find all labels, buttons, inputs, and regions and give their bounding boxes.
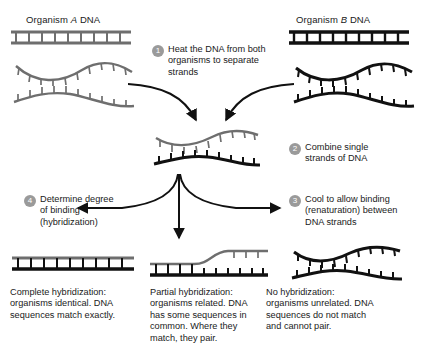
step-3-badge: 3 [289,195,301,207]
step-1: 1 Heat the DNA from both organisms to se… [152,44,280,78]
outcome-partial-caption: Partial hybridization: organisms related… [150,287,260,344]
step-3-text: Cool to allow binding (renaturation) bet… [305,194,397,228]
step-2-line-1: Combine single [305,142,368,153]
step-1-text: Heat the DNA from both organisms to sepa… [168,44,266,78]
outcome-none-line-3: sequences do not match [266,310,416,321]
step-3-line-3: DNA strands [305,217,397,228]
organism-b-single-strands [288,58,418,116]
step-1-badge: 1 [152,45,164,57]
outcome-none-caption: No hybridization: organisms unrelated. D… [266,287,416,333]
outcome-complete-line-3: sequences match exactly. [10,310,142,321]
step-4-line-2: of binding [40,205,114,216]
outcome-complete-line-1: Complete hybridization: [10,287,142,298]
outcome-partial-line-4: common. Where they [150,321,260,332]
outcome-partial-line-1: Partial hybridization: [150,287,260,298]
step-2: 2 Combine single strands of DNA [289,142,399,165]
outcome-partial-line-2: organisms related. DNA [150,298,260,309]
organism-b-prefix: Organism [296,14,341,25]
outcome-partial-line-5: match, they pair. [150,333,260,344]
step-4: 4 Determine degree of binding (hybridiza… [24,194,142,228]
organism-a-single-strands [8,58,138,116]
outcome-complete-caption: Complete hybridization: organisms identi… [10,287,142,321]
organism-b-duplex [288,29,410,46]
step-3-line-1: Cool to allow binding [305,194,397,205]
step-2-text: Combine single strands of DNA [305,142,368,165]
combined-single-strands [152,124,262,172]
step-1-line-2: organisms to separate [168,55,266,66]
step-1-line-1: Heat the DNA from both [168,44,266,55]
outcome-partial-line-3: has some sequences in [150,310,260,321]
outcome-none-line-4: and cannot pair. [266,321,416,332]
organism-b-header: Organism B DNA [296,14,370,25]
step-3: 3 Cool to allow binding (renaturation) b… [289,194,413,228]
step-4-text: Determine degree of binding (hybridizati… [40,194,114,228]
outcome-none-line-2: organisms unrelated. DNA [266,298,416,309]
outcome-complete-line-2: organisms identical. DNA [10,298,142,309]
organism-a-prefix: Organism [26,14,71,25]
organism-a-duplex [10,29,132,46]
step-3-line-2: (renaturation) between [305,205,397,216]
dna-hybridization-figure: Organism A DNA Organ [0,0,421,354]
step-2-line-2: strands of DNA [305,153,368,164]
organism-a-suffix: DNA [77,14,100,25]
no-hybridization-strands [288,242,414,284]
outcome-none-line-1: No hybridization: [266,287,416,298]
complete-hybridization-duplex [10,254,136,272]
organism-b-suffix: DNA [347,14,370,25]
step-4-badge: 4 [24,195,36,207]
step-2-badge: 2 [289,143,301,155]
organism-a-header: Organism A DNA [26,14,100,25]
step-4-line-1: Determine degree [40,194,114,205]
step-1-line-3: strands [168,67,266,78]
partial-hybridization-duplex [148,248,270,278]
step-4-line-3: (hybridization) [40,217,114,228]
